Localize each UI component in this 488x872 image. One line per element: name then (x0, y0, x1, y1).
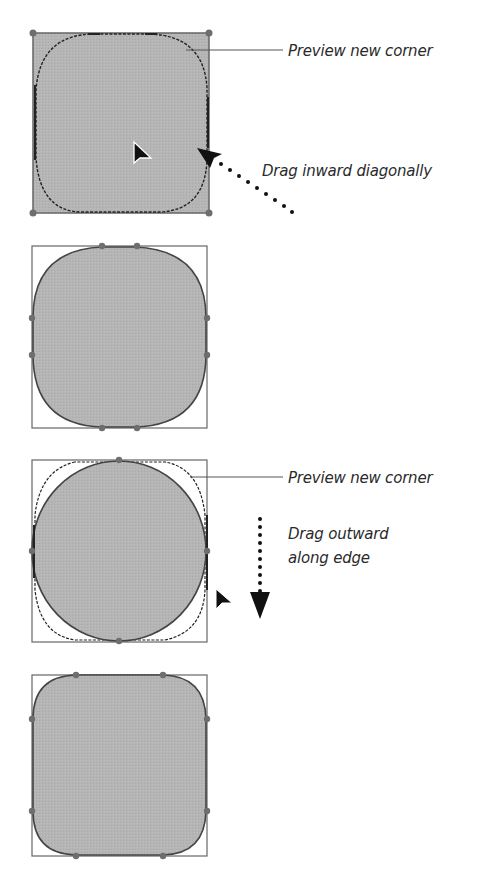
rounded-shape (33, 675, 206, 855)
callout-preview-new-corner-1: Preview new corner (288, 41, 432, 61)
anchor-handle[interactable] (204, 808, 210, 814)
callout-along-edge: along edge (288, 548, 370, 568)
anchor-handle[interactable] (99, 243, 105, 249)
anchor-handle[interactable] (160, 672, 166, 678)
anchor-handle[interactable] (116, 638, 122, 644)
callout-drag-inward-diagonally: Drag inward diagonally (262, 161, 432, 181)
corner-handle[interactable] (30, 210, 37, 217)
anchor-handle[interactable] (29, 716, 35, 722)
anchor-handle[interactable] (204, 716, 210, 722)
callout-drag-outward: Drag outward (288, 524, 389, 544)
anchor-handle[interactable] (116, 457, 122, 463)
rounded-shape (33, 247, 206, 427)
anchor-handle[interactable] (29, 352, 35, 358)
panel-3-circle-with-preview (29, 457, 283, 644)
diagram-canvas (0, 0, 488, 872)
anchor-handle[interactable] (73, 853, 79, 859)
anchor-handle[interactable] (160, 853, 166, 859)
anchor-handle[interactable] (204, 315, 210, 321)
anchor-handle[interactable] (29, 548, 35, 554)
panel-1-square-with-preview (30, 30, 295, 217)
dotted-arrow-icon (197, 148, 294, 214)
anchor-handle[interactable] (134, 243, 140, 249)
anchor-handle[interactable] (29, 808, 35, 814)
panel-4-small-rounded-result (29, 672, 210, 859)
anchor-handle[interactable] (204, 352, 210, 358)
selected-square (33, 33, 209, 213)
panel-2-large-rounded-result (29, 243, 210, 431)
anchor-handle[interactable] (204, 548, 210, 554)
dotted-arrow-icon (250, 517, 270, 619)
corner-handle[interactable] (206, 210, 213, 217)
anchor-handle[interactable] (99, 425, 105, 431)
corner-handle[interactable] (206, 30, 213, 37)
corner-handle[interactable] (30, 30, 37, 37)
circle-shape (32, 461, 206, 641)
callout-preview-new-corner-2: Preview new corner (288, 468, 432, 488)
anchor-handle[interactable] (73, 672, 79, 678)
anchor-handle[interactable] (29, 315, 35, 321)
anchor-handle[interactable] (134, 425, 140, 431)
arrow-cursor-icon (216, 589, 232, 609)
